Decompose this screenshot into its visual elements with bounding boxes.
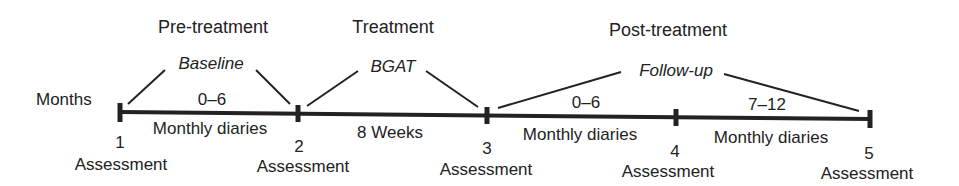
assessment-2-label: Assessment xyxy=(257,158,350,175)
phase-title-post-treatment: Post-treatment xyxy=(609,21,727,39)
assessment-1-number: 1 xyxy=(115,134,124,151)
segment-3-range: 0–6 xyxy=(572,94,600,111)
segment-3-label: Monthly diaries xyxy=(523,126,637,143)
phase-title-treatment: Treatment xyxy=(352,18,433,36)
assessment-3-label: Assessment xyxy=(440,161,533,178)
bgat-bracket-left xyxy=(307,71,358,106)
assessment-1-label: Assessment xyxy=(75,156,168,173)
assessment-4-number: 4 xyxy=(670,143,679,160)
phase-title-pre-treatment: Pre-treatment xyxy=(158,18,268,36)
followup-bracket-right xyxy=(724,74,859,111)
study-timeline-diagram: Months Pre-treatment Treatment Post-trea… xyxy=(0,0,959,186)
assessment-2-number: 2 xyxy=(294,138,303,155)
segment-1-label: Monthly diaries xyxy=(153,120,267,137)
segment-2-label: 8 Weeks xyxy=(357,124,423,141)
segment-4-label: Monthly diaries xyxy=(714,129,828,146)
phase-sub-baseline: Baseline xyxy=(178,55,243,72)
phase-sub-follow-up: Follow-up xyxy=(639,62,713,79)
followup-bracket-left xyxy=(498,72,621,108)
phase-sub-bgat: BGAT xyxy=(370,58,415,75)
axis-label-months: Months xyxy=(36,91,92,108)
baseline-bracket-right xyxy=(256,70,290,104)
baseline-bracket-left xyxy=(128,70,165,104)
segment-4-range: 7–12 xyxy=(748,96,786,113)
assessment-4-label: Assessment xyxy=(622,163,715,180)
bgat-bracket-right xyxy=(426,71,478,107)
assessment-5-label: Assessment xyxy=(821,165,914,182)
assessment-3-number: 3 xyxy=(482,140,491,157)
assessment-5-number: 5 xyxy=(864,145,873,162)
segment-1-range: 0–6 xyxy=(198,91,226,108)
